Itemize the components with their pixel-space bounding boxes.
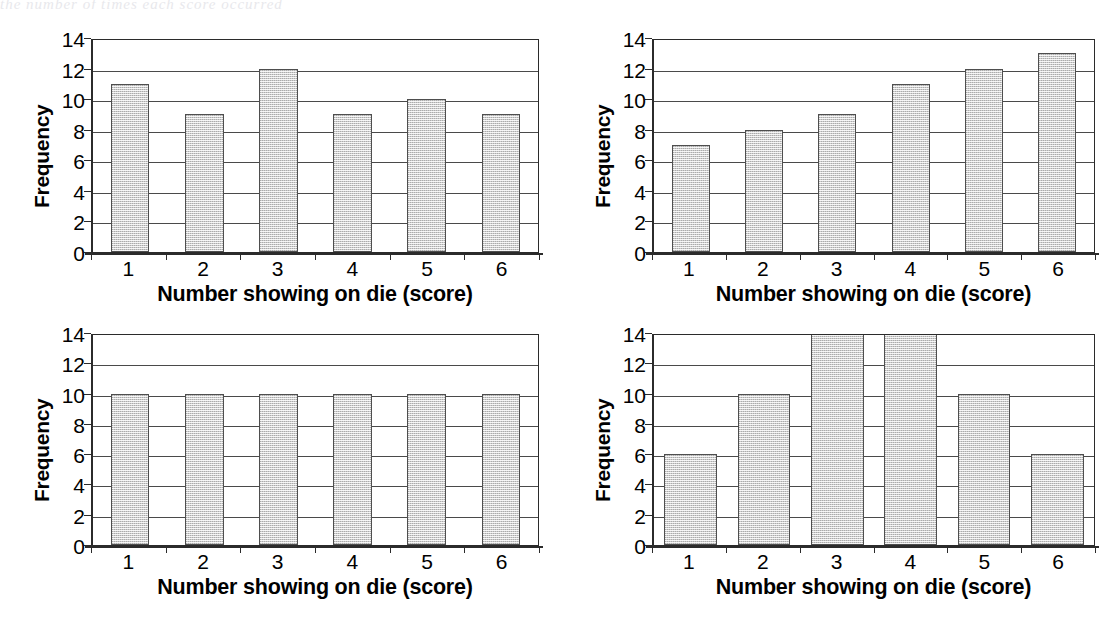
bar[interactable] (672, 145, 710, 252)
x-axis-tick-label: 6 (1021, 258, 1095, 279)
bar-series (654, 335, 1094, 545)
bar[interactable] (482, 394, 521, 545)
y-axis-tick-mark (645, 454, 652, 455)
x-axis-title: Number showing on die (score) (652, 284, 1095, 306)
y-axis-tick-label: 8 (634, 120, 646, 141)
chart-panel-top-right: Frequency02468101214123456Number showing… (557, 0, 1115, 310)
bar[interactable] (111, 394, 150, 545)
y-axis-tick-label: 2 (73, 505, 85, 526)
y-axis-tick-labels: 02468101214 (51, 0, 85, 273)
bar-slot (316, 40, 390, 252)
bar[interactable] (965, 69, 1003, 252)
bar-slot (1021, 335, 1094, 545)
x-axis-tick-label: 3 (240, 551, 315, 572)
bar-slot (167, 40, 241, 252)
bar-slot (874, 40, 947, 252)
bar-slot (727, 335, 800, 545)
x-axis-tick-label: 6 (1021, 551, 1095, 572)
y-axis-tick-label: 14 (623, 29, 646, 50)
y-axis-tick-label: 2 (634, 505, 646, 526)
y-axis-tick-mark (645, 394, 652, 395)
bar-slot (654, 335, 727, 545)
x-axis-title: Number showing on die (score) (91, 577, 539, 599)
bar-slot (464, 335, 538, 545)
y-axis-tick-label: 10 (623, 384, 646, 405)
bar[interactable] (111, 84, 150, 252)
y-axis-tick-label: 4 (634, 181, 646, 202)
bar[interactable] (738, 394, 791, 545)
bar[interactable] (1031, 454, 1084, 545)
x-axis-tick-labels: 123456 (652, 258, 1095, 279)
x-axis-tick-label: 1 (91, 258, 166, 279)
x-axis-tick-mark (1095, 253, 1096, 260)
x-axis-tick-mark (1095, 546, 1096, 553)
y-axis-tick-mark (84, 38, 91, 39)
y-axis-tick-label: 6 (73, 445, 85, 466)
bar[interactable] (664, 454, 717, 545)
bar[interactable] (1038, 53, 1076, 252)
chart-panel-bottom-right: Frequency02468101214123456Number showing… (557, 310, 1115, 632)
bar-slot (947, 40, 1020, 252)
y-axis-tick-labels: 02468101214 (612, 310, 646, 566)
y-axis-tick-label: 0 (73, 536, 85, 557)
y-axis-tick-mark (84, 363, 91, 364)
y-axis-tick-mark (84, 160, 91, 161)
y-axis-tick-label: 6 (634, 445, 646, 466)
bar[interactable] (333, 394, 372, 545)
y-axis-tick-mark (84, 69, 91, 70)
x-axis-tick-label: 1 (652, 551, 726, 572)
bar-slot (316, 335, 390, 545)
y-axis-tick-label: 12 (623, 354, 646, 375)
y-axis-tick-label: 0 (634, 243, 646, 264)
y-axis-tick-label: 2 (634, 212, 646, 233)
y-axis-tick-label: 4 (73, 181, 85, 202)
bar[interactable] (259, 69, 298, 252)
bar[interactable] (185, 114, 224, 252)
bar[interactable] (407, 394, 446, 545)
x-axis-title: Number showing on die (score) (91, 284, 539, 306)
x-axis-tick-label: 1 (652, 258, 726, 279)
bar[interactable] (884, 334, 937, 545)
bar-slot (390, 335, 464, 545)
x-axis-tick-mark (539, 546, 540, 553)
x-axis-tick-labels: 123456 (652, 551, 1095, 572)
x-axis-tick-label: 3 (800, 258, 874, 279)
y-axis-tick-label: 2 (73, 212, 85, 233)
bar-slot (464, 40, 538, 252)
bar-slot (390, 40, 464, 252)
x-axis-tick-label: 2 (726, 258, 800, 279)
bar[interactable] (811, 334, 864, 545)
y-axis-tick-label: 12 (62, 354, 85, 375)
bar[interactable] (818, 114, 856, 252)
chart-grid: Frequency02468101214123456Number showing… (0, 0, 1115, 632)
bar[interactable] (482, 114, 521, 252)
y-axis-tick-label: 0 (634, 536, 646, 557)
x-axis-tick-label: 4 (315, 551, 390, 572)
bar[interactable] (407, 99, 446, 252)
x-axis-tick-labels: 123456 (91, 258, 539, 279)
x-axis-tick-label: 2 (726, 551, 800, 572)
y-axis-tick-label: 14 (62, 324, 85, 345)
y-axis-tick-label: 8 (73, 414, 85, 435)
y-axis-tick-label: 0 (73, 243, 85, 264)
y-axis-tick-label: 14 (623, 324, 646, 345)
chart-panel-top-left: Frequency02468101214123456Number showing… (0, 0, 557, 310)
y-axis-tick-mark (84, 515, 91, 516)
bar[interactable] (259, 394, 298, 545)
y-axis-tick-mark (84, 221, 91, 222)
bar[interactable] (185, 394, 224, 545)
bar[interactable] (333, 114, 372, 252)
x-axis-tick-label: 6 (464, 551, 539, 572)
bar[interactable] (958, 394, 1011, 545)
y-axis-tick-label: 4 (634, 475, 646, 496)
bar[interactable] (892, 84, 930, 252)
y-axis-tick-mark (84, 130, 91, 131)
y-axis-tick-label: 6 (73, 151, 85, 172)
x-axis-tick-label: 4 (873, 258, 947, 279)
bar[interactable] (745, 130, 783, 252)
plot-area (652, 39, 1095, 253)
bar-slot (241, 40, 315, 252)
y-axis-tick-label: 12 (62, 59, 85, 80)
y-axis-tick-label: 12 (623, 59, 646, 80)
x-axis-title: Number showing on die (score) (652, 577, 1095, 599)
